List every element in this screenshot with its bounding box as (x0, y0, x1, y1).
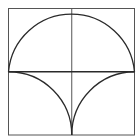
geometry-diagram (0, 0, 138, 139)
lower-left-quarter-arc (9, 72, 72, 135)
lower-right-quarter-arc (72, 72, 135, 135)
